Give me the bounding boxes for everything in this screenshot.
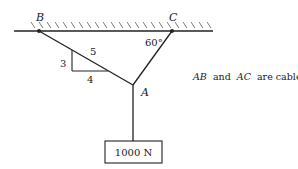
note-ac: AC — [236, 71, 252, 82]
cables-note: AB and AC are cables — [192, 71, 298, 82]
slope-hyp-label: 5 — [90, 46, 96, 57]
angle-label: 60° — [145, 37, 163, 48]
ceiling-hatch — [31, 22, 211, 28]
label-b: B — [35, 11, 44, 24]
label-a: A — [140, 86, 149, 99]
joint-b — [37, 29, 41, 33]
slope-run-label: 4 — [87, 74, 93, 85]
note-ab: AB — [192, 71, 207, 82]
note-and: and — [213, 71, 231, 82]
load-label: 1000 N — [115, 147, 153, 158]
cable-ab — [39, 31, 133, 85]
joint-c — [170, 29, 174, 33]
label-c: C — [169, 11, 178, 24]
note-rest: are cables — [257, 71, 298, 82]
slope-rise-label: 3 — [60, 58, 66, 69]
cable-diagram: B C A 60° 5 3 4 1000 N AB and AC are cab… — [0, 0, 298, 169]
